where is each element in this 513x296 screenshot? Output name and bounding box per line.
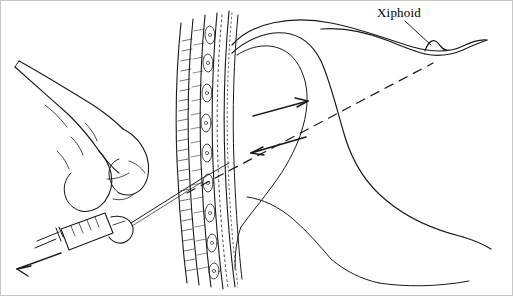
label-xiphoid: Xiphoid xyxy=(377,5,421,21)
arrow-lower xyxy=(251,137,306,155)
body-outline xyxy=(232,20,491,286)
anatomy-illustration xyxy=(1,1,513,296)
syringe xyxy=(35,163,229,250)
syringe-arrow xyxy=(17,253,61,276)
figure-container: Xiphoid xyxy=(0,0,513,296)
hand xyxy=(15,61,149,212)
arrow-upper xyxy=(253,98,308,116)
xiphoid-leader-line xyxy=(405,21,431,45)
